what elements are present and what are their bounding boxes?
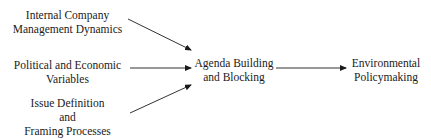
arrow-internal-to-agenda	[128, 19, 191, 50]
arrow-issue-to-agenda	[130, 85, 191, 113]
edges-layer	[0, 0, 431, 139]
